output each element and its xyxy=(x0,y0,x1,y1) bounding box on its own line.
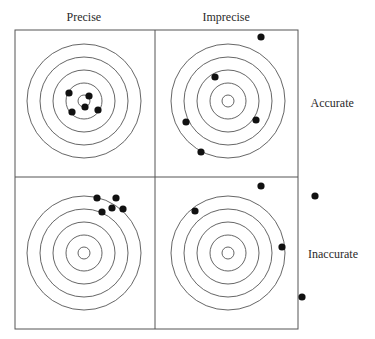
target-ring-imprecise-inaccurate-0 xyxy=(222,247,234,259)
target-grid-diagram xyxy=(0,0,375,339)
target-ring-imprecise-accurate-2 xyxy=(197,70,259,132)
target-ring-precise-accurate-4 xyxy=(27,44,141,158)
shot-dot-precise-accurate-3 xyxy=(68,108,75,115)
target-ring-imprecise-accurate-4 xyxy=(171,44,285,158)
shot-dot-imprecise-accurate-2 xyxy=(182,118,189,125)
shot-dot-precise-inaccurate-4 xyxy=(98,208,105,215)
shot-dot-imprecise-accurate-4 xyxy=(197,148,204,155)
shot-dot-imprecise-inaccurate-3 xyxy=(278,243,285,250)
shot-dot-imprecise-inaccurate-2 xyxy=(191,207,198,214)
shot-dot-precise-accurate-4 xyxy=(94,106,101,113)
shot-dot-precise-inaccurate-1 xyxy=(112,194,119,201)
shot-dot-precise-inaccurate-0 xyxy=(93,194,100,201)
shot-dot-imprecise-accurate-1 xyxy=(211,73,218,80)
shot-dot-imprecise-inaccurate-0 xyxy=(257,182,264,189)
target-ring-imprecise-inaccurate-2 xyxy=(197,222,259,284)
target-ring-imprecise-inaccurate-4 xyxy=(171,196,285,310)
target-ring-precise-inaccurate-1 xyxy=(66,235,102,271)
shot-dot-imprecise-inaccurate-4 xyxy=(298,293,305,300)
shot-dot-imprecise-accurate-0 xyxy=(257,33,264,40)
target-ring-precise-inaccurate-2 xyxy=(53,222,115,284)
target-ring-precise-accurate-2 xyxy=(53,70,115,132)
target-ring-precise-inaccurate-0 xyxy=(78,247,90,259)
shot-dot-precise-inaccurate-2 xyxy=(108,204,115,211)
shot-dot-precise-accurate-2 xyxy=(81,103,88,110)
shot-dot-precise-accurate-1 xyxy=(85,92,92,99)
target-ring-precise-inaccurate-4 xyxy=(27,196,141,310)
shot-dot-precise-accurate-0 xyxy=(65,89,72,96)
shot-dot-imprecise-inaccurate-1 xyxy=(311,192,318,199)
target-ring-imprecise-accurate-0 xyxy=(222,95,234,107)
target-ring-imprecise-inaccurate-1 xyxy=(210,235,246,271)
target-ring-imprecise-accurate-1 xyxy=(210,83,246,119)
shot-dot-imprecise-accurate-3 xyxy=(252,116,259,123)
shot-dot-precise-inaccurate-3 xyxy=(119,205,126,212)
grid-border xyxy=(15,30,298,329)
